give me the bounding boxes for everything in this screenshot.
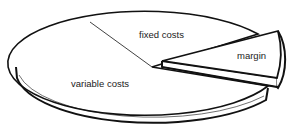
pie-chart: fixed costs margin variable costs: [0, 0, 305, 139]
pie-chart-graphic: [0, 0, 305, 139]
label-variable-costs: variable costs: [71, 79, 129, 89]
label-margin: margin: [237, 51, 266, 61]
label-fixed-costs: fixed costs: [139, 30, 184, 40]
